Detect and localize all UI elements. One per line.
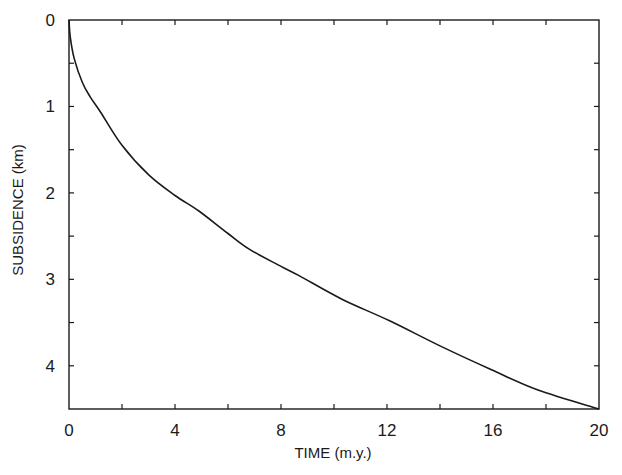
- y-tick-label: 3: [46, 270, 55, 289]
- subsidence-chart: 048121620 01234 TIME (m.y.) SUBSIDENCE (…: [0, 0, 622, 475]
- plot-frame: [69, 20, 599, 409]
- y-tick-label: 2: [46, 184, 55, 203]
- subsidence-curve: [69, 20, 599, 409]
- x-tick-label: 8: [276, 421, 285, 440]
- y-axis-title: SUBSIDENCE (km): [9, 144, 26, 276]
- plot-border: [69, 20, 599, 409]
- y-axis-ticks: [69, 63, 599, 366]
- x-tick-label: 12: [378, 421, 397, 440]
- x-tick-label: 20: [590, 421, 609, 440]
- y-tick-label: 4: [46, 357, 55, 376]
- x-axis-tick-labels: 048121620: [64, 421, 608, 440]
- y-tick-label: 0: [46, 11, 55, 30]
- y-axis-tick-labels: 01234: [46, 11, 55, 376]
- x-tick-label: 4: [170, 421, 179, 440]
- x-tick-label: 0: [64, 421, 73, 440]
- x-tick-label: 16: [484, 421, 503, 440]
- y-tick-label: 1: [46, 97, 55, 116]
- x-axis-title: TIME (m.y.): [294, 444, 371, 461]
- x-axis-ticks: [122, 20, 546, 409]
